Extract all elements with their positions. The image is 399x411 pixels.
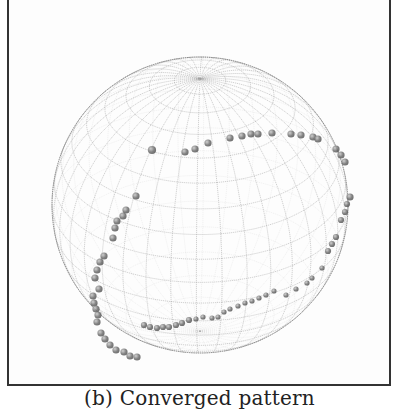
pattern-point <box>95 285 102 292</box>
pattern-point <box>112 346 119 353</box>
pattern-point <box>101 335 108 342</box>
pattern-point <box>235 303 240 308</box>
pattern-point <box>94 311 101 318</box>
sphere-plot <box>0 0 399 386</box>
pattern-point <box>346 193 353 200</box>
pattern-point <box>314 135 321 142</box>
pattern-point <box>93 266 100 273</box>
pattern-point <box>91 274 98 281</box>
pattern-point <box>132 192 139 199</box>
pattern-point <box>154 325 160 331</box>
pattern-point <box>238 132 245 139</box>
pattern-point <box>293 286 298 291</box>
pattern-point <box>96 258 103 265</box>
pattern-point <box>341 158 348 165</box>
pattern-point <box>93 318 100 325</box>
pattern-point <box>106 341 113 348</box>
pattern-point <box>249 298 254 303</box>
pattern-point <box>160 324 166 330</box>
pattern-point <box>181 148 188 155</box>
pattern-point <box>186 317 192 323</box>
pattern-point <box>263 292 268 297</box>
pattern-point <box>287 130 294 137</box>
pattern-point <box>89 292 96 299</box>
pattern-point <box>242 300 247 305</box>
pattern-point <box>283 292 288 297</box>
pattern-point <box>120 348 127 355</box>
pattern-point <box>226 134 233 141</box>
pattern-point <box>148 146 156 154</box>
pattern-point <box>204 139 211 146</box>
pattern-point <box>319 265 324 270</box>
pattern-point <box>191 145 198 152</box>
pattern-point <box>209 315 214 320</box>
pattern-point <box>333 234 339 240</box>
pattern-point <box>342 209 348 215</box>
pattern-point <box>166 324 172 330</box>
pattern-point <box>332 145 339 152</box>
pattern-point <box>254 130 261 137</box>
pattern-point <box>304 280 309 285</box>
pattern-point <box>113 217 120 224</box>
pattern-point <box>325 248 331 254</box>
pattern-point <box>268 129 275 136</box>
pattern-point <box>200 314 205 319</box>
pattern-point <box>97 329 104 336</box>
pattern-point <box>309 275 314 280</box>
pattern-point <box>147 324 153 330</box>
pattern-point <box>329 241 335 247</box>
pattern-point <box>179 320 185 326</box>
pattern-point <box>344 201 350 207</box>
pattern-point <box>126 352 133 359</box>
pattern-point <box>215 314 220 319</box>
pattern-point <box>337 151 344 158</box>
pattern-point <box>221 309 226 314</box>
figure-caption: (b) Converged pattern <box>0 386 399 410</box>
pattern-point <box>119 212 126 219</box>
pattern-point <box>173 322 179 328</box>
pattern-point <box>133 353 140 360</box>
pattern-point <box>256 295 261 300</box>
pattern-point <box>297 131 304 138</box>
pattern-point <box>227 306 232 311</box>
pattern-point <box>141 322 147 328</box>
pattern-point <box>193 316 198 321</box>
pattern-point <box>247 130 254 137</box>
pattern-point <box>100 252 107 259</box>
pattern-point <box>111 224 118 231</box>
pattern-point <box>271 288 276 293</box>
pattern-point <box>109 234 116 241</box>
pattern-point <box>338 217 344 223</box>
